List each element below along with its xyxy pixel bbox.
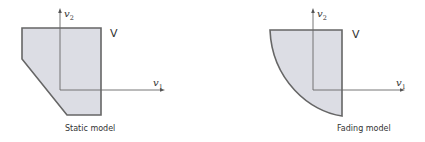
panel-fading: v2 v1 V Fading model xyxy=(270,8,406,133)
fading-y-arrow-icon xyxy=(311,8,315,13)
figure-canvas: v2 v1 V Static model v2 v1 V Fading mode… xyxy=(0,0,425,142)
fading-caption: Fading model xyxy=(337,124,391,133)
static-caption: Static model xyxy=(65,124,115,133)
fading-region-label: V xyxy=(352,28,360,41)
fading-y-axis-label: v2 xyxy=(317,8,327,22)
fading-x-axis-label: v1 xyxy=(396,77,406,91)
static-y-arrow-icon xyxy=(58,8,62,13)
static-region-v xyxy=(22,28,101,115)
static-y-axis-label: v2 xyxy=(64,8,74,22)
static-region-label: V xyxy=(110,27,118,40)
static-x-axis-label: v1 xyxy=(153,77,163,91)
panel-static: v2 v1 V Static model xyxy=(22,8,165,133)
fading-region-v xyxy=(270,30,342,116)
